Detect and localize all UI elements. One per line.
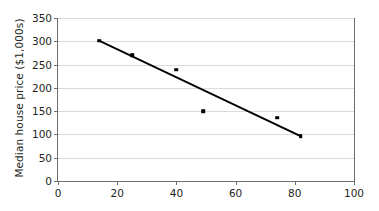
y-axis-title: Median house price ($1,000s) (10, 3, 28, 193)
data-point (201, 109, 205, 113)
data-point (98, 39, 102, 43)
y-tick-mark (54, 88, 58, 89)
gridline (58, 65, 354, 66)
data-point (130, 53, 134, 57)
x-tick-mark (354, 181, 355, 185)
gridline (58, 18, 354, 19)
x-tick-mark (58, 181, 59, 185)
data-point (275, 116, 279, 120)
y-tick-mark (54, 65, 58, 66)
trend-line (58, 18, 354, 181)
gridline (58, 158, 354, 159)
y-tick-mark (54, 134, 58, 135)
x-tick-mark (176, 181, 177, 185)
y-tick-mark (54, 41, 58, 42)
x-tick-mark (295, 181, 296, 185)
x-tick-label: 0 (55, 187, 62, 199)
gridline (58, 88, 354, 89)
y-tick-label: 150 (32, 105, 52, 117)
y-tick-mark (54, 111, 58, 112)
scatter-chart: Median house price ($1,000s) 05010015020… (0, 0, 379, 211)
y-tick-label: 100 (32, 128, 52, 140)
x-tick-label: 80 (288, 187, 301, 199)
y-tick-label: 250 (32, 59, 52, 71)
x-tick-mark (236, 181, 237, 185)
x-tick-label: 40 (170, 187, 183, 199)
x-tick-mark (117, 181, 118, 185)
gridline (58, 134, 354, 135)
data-point (175, 68, 179, 72)
gridline (58, 111, 354, 112)
plot-area: 050100150200250300350 020406080100 (57, 18, 355, 182)
y-tick-mark (54, 158, 58, 159)
y-tick-label: 350 (32, 12, 52, 24)
x-tick-label: 100 (344, 187, 364, 199)
gridline (58, 41, 354, 42)
y-tick-mark (54, 18, 58, 19)
data-point (299, 134, 303, 138)
y-tick-label: 200 (32, 82, 52, 94)
y-tick-label: 300 (32, 35, 52, 47)
x-tick-label: 20 (111, 187, 124, 199)
y-tick-label: 0 (45, 175, 52, 187)
x-tick-label: 60 (229, 187, 242, 199)
y-tick-label: 50 (39, 152, 52, 164)
